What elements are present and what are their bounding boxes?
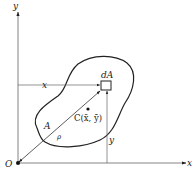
radius-label: ρ: [56, 133, 62, 141]
centroid-point: [86, 107, 89, 110]
rho-radius-arrow: [19, 91, 100, 162]
area-region-outline: [35, 56, 133, 146]
x-distance-label: x: [42, 80, 47, 90]
x-axis-label: x: [187, 158, 192, 168]
y-axis-label: y: [12, 1, 19, 11]
origin-label: O: [5, 159, 13, 169]
area-element-da: [101, 81, 111, 90]
origin-point: [16, 161, 20, 165]
y-distance-label: y: [108, 135, 115, 145]
centroid-diagram: y x O dA x y A ρ C(x̄, ȳ): [0, 0, 196, 184]
area-label: A: [43, 121, 51, 131]
element-label-da: dA: [101, 70, 114, 80]
centroid-label: C(x̄, ȳ): [74, 113, 102, 123]
